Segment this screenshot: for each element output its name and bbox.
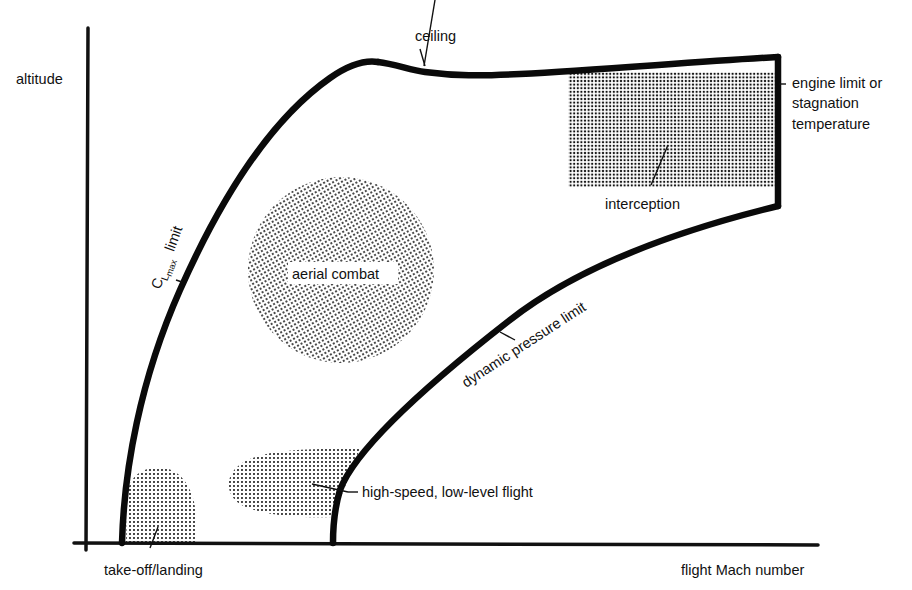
y-axis [86,28,88,550]
take-off-landing-label: take-off/landing [104,562,203,578]
engine-limit-label-line-1: engine limit or [792,75,882,91]
y-axis-label: altitude [16,71,63,87]
aerial-combat-label-box: aerial combat [288,262,398,284]
flight-envelope-diagram: altitude flight Mach number ceiling engi… [0,0,912,590]
clmax-limit-word: limit [161,224,185,254]
region-take-off-landing [126,467,196,542]
engine-limit-label-line-2: stagnation [792,95,859,111]
clmax-sub-max: max [164,258,179,278]
region-interception [568,72,776,187]
ceiling-label: ceiling [415,28,456,44]
interception-label: interception [605,196,680,212]
x-axis [74,543,818,545]
engine-limit-label-line-3: temperature [792,116,870,132]
aerial-combat-label: aerial combat [292,266,379,282]
x-axis-label: flight Mach number [681,562,804,578]
high-speed-low-level-label: high-speed, low-level flight [362,484,533,500]
